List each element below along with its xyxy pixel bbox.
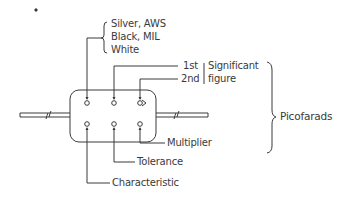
stray-dot (35, 9, 37, 11)
capacitor-diagram (0, 0, 341, 202)
label-picofarads: Picofarads (280, 111, 332, 122)
brace-characteristic (101, 22, 107, 53)
label-significant: Significant (208, 60, 259, 71)
label-second: 2nd (181, 73, 199, 84)
brace-picofarads (267, 62, 276, 153)
label-white: White (111, 44, 139, 55)
label-multiplier: Multiplier (167, 137, 212, 148)
label-first: 1st (183, 60, 198, 71)
right-lead (156, 111, 208, 119)
left-lead (20, 111, 70, 119)
label-tolerance: Tolerance (137, 156, 183, 167)
label-silver-aws: Silver, AWS (111, 18, 166, 29)
label-characteristic: Characteristic (112, 177, 179, 188)
label-black-mil: Black, MIL (111, 31, 160, 42)
label-figure: figure (208, 73, 236, 84)
